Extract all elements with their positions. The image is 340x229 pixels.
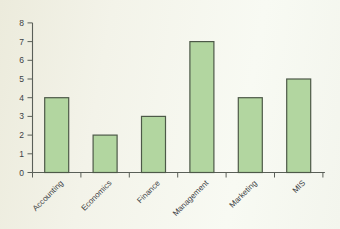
- y-tick-label: 1: [19, 149, 24, 159]
- bar-accounting: [45, 98, 69, 173]
- y-tick-label: 6: [19, 55, 24, 65]
- x-category-label-finance: Finance: [135, 178, 162, 205]
- x-category-label-accounting: Accounting: [31, 179, 65, 213]
- y-tick-label: 0: [19, 168, 24, 178]
- bar-marketing: [238, 98, 262, 173]
- bar-economics: [93, 135, 117, 172]
- bar-finance: [142, 116, 166, 172]
- y-tick-label: 2: [19, 130, 24, 140]
- y-tick-label: 3: [19, 111, 24, 121]
- x-category-label-management: Management: [171, 178, 211, 218]
- bar-chart: 012345678AccountingEconomicsFinanceManag…: [0, 0, 340, 229]
- x-category-label-economics: Economics: [79, 179, 113, 213]
- x-category-label-mis: MIS: [291, 179, 307, 195]
- bar-mis: [287, 79, 311, 173]
- y-tick-label: 8: [19, 18, 24, 28]
- y-tick-label: 4: [19, 93, 24, 103]
- scanned-page-background: 012345678AccountingEconomicsFinanceManag…: [0, 0, 340, 229]
- x-category-label-marketing: Marketing: [228, 179, 259, 210]
- y-tick-label: 7: [19, 37, 24, 47]
- y-tick-label: 5: [19, 74, 24, 84]
- bar-management: [190, 42, 214, 173]
